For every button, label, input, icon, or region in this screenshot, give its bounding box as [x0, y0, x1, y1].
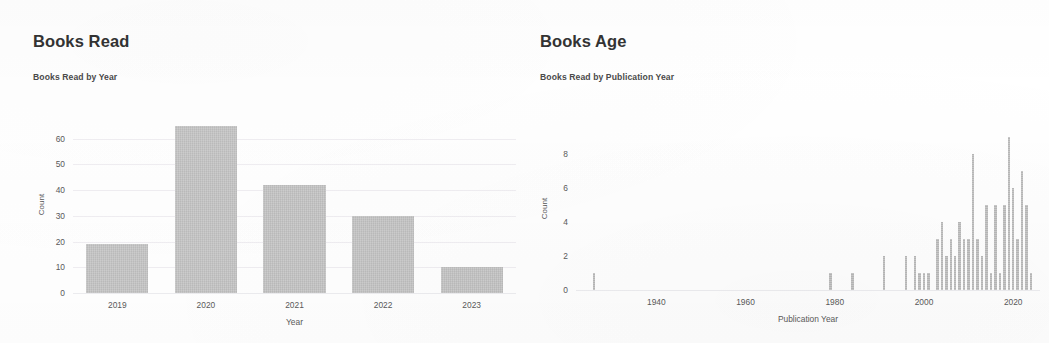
x-axis-tick-label: 1980 — [825, 297, 844, 307]
x-axis-tick-label: 1960 — [736, 297, 755, 307]
bar — [883, 256, 885, 290]
bar — [927, 273, 929, 290]
x-axis-tick-label: 2019 — [108, 300, 127, 310]
bar — [981, 256, 983, 290]
x-axis-baseline — [73, 293, 516, 294]
x-axis-tick-label: 2022 — [374, 300, 393, 310]
x-axis-tick-label: 2023 — [462, 300, 481, 310]
bar — [1016, 239, 1018, 290]
bar — [914, 256, 916, 290]
bar — [958, 222, 960, 290]
bar — [86, 244, 148, 293]
bar — [941, 222, 943, 290]
y-axis-tick-label: 0 — [33, 288, 65, 298]
panel-books-age: Books Age Books Read by Publication Year… — [524, 0, 1049, 343]
bar — [936, 239, 938, 290]
bar — [985, 205, 987, 290]
bar — [950, 239, 952, 290]
chart-books-read-by-publication-year: 0246819401960198020002020 — [524, 0, 1049, 343]
bar — [829, 273, 831, 290]
bar — [1030, 273, 1032, 290]
bar — [1012, 188, 1014, 290]
bar — [1025, 205, 1027, 290]
gridline-y — [73, 164, 516, 165]
bar — [954, 256, 956, 290]
bar — [923, 273, 925, 290]
x-axis-baseline — [576, 290, 1040, 291]
chart-books-read-by-year: 010203040506020192020202120222023 — [0, 0, 524, 343]
bar — [972, 154, 974, 290]
x-axis-tick-label: 2021 — [285, 300, 304, 310]
y-axis-tick-label: 50 — [33, 159, 65, 169]
x-axis-tick-label: 1940 — [647, 297, 666, 307]
bar — [1003, 205, 1005, 290]
bar — [918, 273, 920, 290]
x-axis-label-publication-year: Publication Year — [576, 314, 1040, 324]
y-axis-label-count-left: Count — [37, 174, 46, 234]
y-axis-tick-label: 20 — [33, 237, 65, 247]
y-axis-tick-label: 2 — [536, 251, 568, 261]
y-axis-label-count-right: Count — [540, 179, 549, 239]
bar — [1008, 137, 1010, 290]
bar — [263, 185, 325, 293]
x-axis-tick-label: 2000 — [915, 297, 934, 307]
bar — [441, 267, 503, 293]
y-axis-tick-label: 60 — [33, 134, 65, 144]
x-axis-label-year: Year — [73, 317, 516, 327]
bar — [1021, 171, 1023, 290]
bar — [175, 126, 237, 293]
x-axis-tick-label: 2020 — [197, 300, 216, 310]
bar — [967, 239, 969, 290]
bar — [976, 239, 978, 290]
bar — [963, 239, 965, 290]
bar — [994, 205, 996, 290]
bar — [945, 256, 947, 290]
bar — [352, 216, 414, 293]
x-axis-tick-label: 2020 — [1004, 297, 1023, 307]
bar — [905, 256, 907, 290]
bar — [990, 273, 992, 290]
bar — [851, 273, 853, 290]
y-axis-tick-label: 8 — [536, 149, 568, 159]
panel-books-read: Books Read Books Read by Year 0102030405… — [0, 0, 524, 343]
gridline-y — [73, 139, 516, 140]
bar — [999, 273, 1001, 290]
y-axis-tick-label: 10 — [33, 262, 65, 272]
bar — [593, 273, 595, 290]
y-axis-tick-label: 0 — [536, 285, 568, 295]
